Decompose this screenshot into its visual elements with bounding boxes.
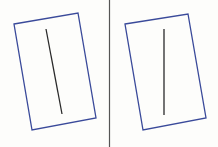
diagram-canvas [0, 0, 218, 147]
